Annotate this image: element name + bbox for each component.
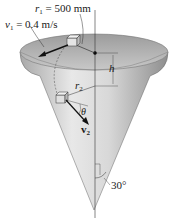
r1-value: = 500 mm bbox=[46, 2, 91, 14]
cone-body bbox=[20, 52, 168, 210]
angle-label: 30° bbox=[111, 180, 126, 191]
r1-label: r1 = 500 mm bbox=[35, 3, 91, 16]
v2-sub: 2 bbox=[87, 129, 91, 137]
v1-label: v1 = 0.4 m/s bbox=[5, 19, 58, 32]
angle-value: 30° bbox=[111, 179, 126, 191]
h-symbol: h bbox=[109, 62, 115, 74]
r1-sub: 1 bbox=[39, 8, 43, 16]
v2-label: v2 bbox=[81, 124, 90, 137]
r2-label: r2 bbox=[75, 80, 83, 93]
v1-value: = 0.4 m/s bbox=[16, 18, 57, 30]
theta-symbol: θ bbox=[81, 106, 86, 117]
theta-label: θ bbox=[81, 107, 86, 117]
r2-sub: 2 bbox=[79, 85, 83, 93]
block-2 bbox=[56, 92, 68, 103]
v1-sub: 1 bbox=[10, 24, 14, 32]
block-1 bbox=[67, 35, 80, 46]
h-label: h bbox=[109, 63, 115, 74]
